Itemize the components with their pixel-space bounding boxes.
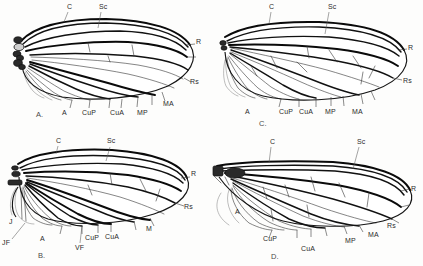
label-radius-c: R bbox=[408, 44, 413, 51]
label-jugal-fold-b: JF bbox=[2, 239, 10, 246]
label-media-b: M bbox=[146, 225, 152, 232]
label-ma-d: MA bbox=[368, 231, 379, 238]
wing-venation-drawing-b bbox=[0, 133, 212, 266]
label-cup-a: CuP bbox=[82, 109, 96, 116]
label-radius-a: R bbox=[196, 38, 201, 45]
label-radius-b: R bbox=[191, 170, 196, 177]
label-costa-d: C bbox=[270, 138, 275, 145]
wing-diagram-panel-c: C Sc R Rs A CuP CuA MP MA C. bbox=[211, 0, 423, 133]
figure-plate: C Sc R Rs A CuP CuA MP MA A. bbox=[0, 0, 423, 266]
label-radial-sector-c: Rs bbox=[403, 77, 412, 84]
label-radial-sector-b: Rs bbox=[184, 203, 193, 210]
label-cua-b: CuA bbox=[105, 233, 119, 240]
label-mp-c: MP bbox=[325, 108, 336, 115]
label-mp-a: MP bbox=[137, 109, 148, 116]
label-cua-a: CuA bbox=[110, 109, 124, 116]
label-costa-c: C bbox=[269, 3, 274, 10]
wing-diagram-panel-d: C Sc R Rs A CuP CuA MP MA D. bbox=[211, 133, 423, 266]
label-subcosta-b: Sc bbox=[107, 137, 116, 144]
label-radial-sector-d: Rs bbox=[387, 222, 396, 229]
panel-letter-d: D. bbox=[271, 252, 279, 261]
label-cup-b: CuP bbox=[85, 234, 99, 241]
label-radius-d: R bbox=[411, 185, 416, 192]
label-jugal-b: J bbox=[9, 218, 13, 225]
label-costa-b: C bbox=[56, 137, 61, 144]
panel-letter-b: B. bbox=[38, 251, 45, 260]
label-anal-a: A bbox=[62, 109, 67, 116]
wing-venation-drawing-a bbox=[0, 0, 212, 133]
label-subcosta-a: Sc bbox=[99, 3, 108, 10]
wing-diagram-panel-b: C Sc R Rs J JF A CuP CuA VF M B. bbox=[0, 133, 212, 266]
wing-venation-drawing-c bbox=[211, 0, 423, 133]
label-ma-a: MA bbox=[163, 100, 174, 107]
label-cua-d: CuA bbox=[301, 245, 315, 252]
panel-letter-c: C. bbox=[259, 119, 267, 128]
label-subcosta-d: Sc bbox=[357, 138, 366, 145]
label-cua-c: CuA bbox=[299, 108, 313, 115]
label-subcosta-c: Sc bbox=[328, 3, 337, 10]
label-cup-c: CuP bbox=[279, 108, 293, 115]
label-cup-d: CuP bbox=[263, 235, 277, 242]
label-anal-c: A bbox=[245, 108, 250, 115]
label-vannal-fold-b: VF bbox=[75, 244, 84, 251]
panel-letter-a: A. bbox=[36, 110, 43, 119]
label-radial-sector-a: Rs bbox=[190, 78, 199, 85]
wing-diagram-panel-a: C Sc R Rs A CuP CuA MP MA A. bbox=[0, 0, 212, 133]
label-mp-d: MP bbox=[345, 237, 356, 244]
label-costa-a: C bbox=[67, 3, 72, 10]
wing-venation-drawing-d bbox=[211, 133, 423, 266]
label-anal-d: A bbox=[235, 208, 240, 215]
label-ma-c: MA bbox=[352, 108, 363, 115]
label-anal-b: A bbox=[40, 235, 45, 242]
